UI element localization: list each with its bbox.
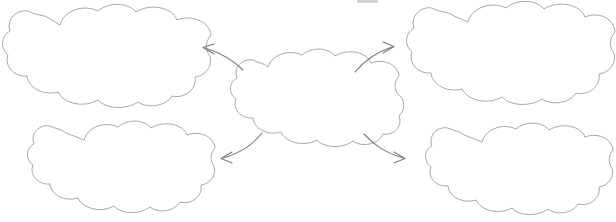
- top-right-cloud[interactable]: [407, 1, 615, 104]
- top-left-cloud[interactable]: [3, 4, 211, 107]
- cloud-concept-map-diagram: [0, 0, 616, 222]
- diagram-canvas: [0, 0, 616, 222]
- arrow-center-to-bottom-left[interactable]: [221, 133, 262, 163]
- top-left-cloud-outline: [3, 4, 211, 107]
- arrow-center-to-bottom-right-head: [394, 152, 405, 163]
- arrow-center-to-top-right-head: [383, 42, 394, 53]
- bottom-right-cloud[interactable]: [425, 123, 613, 214]
- center-cloud[interactable]: [230, 49, 403, 146]
- center-cloud-outline: [230, 49, 403, 146]
- arrow-center-to-bottom-left-head: [221, 152, 232, 163]
- top-right-cloud-outline: [407, 1, 615, 104]
- bottom-right-cloud-outline: [425, 123, 613, 214]
- bottom-left-cloud-outline: [27, 121, 215, 212]
- bottom-left-cloud[interactable]: [27, 121, 215, 212]
